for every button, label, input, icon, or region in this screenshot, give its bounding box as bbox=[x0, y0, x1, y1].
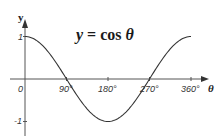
x-tick-label-270: 270° bbox=[139, 84, 159, 94]
y-tick-label-neg1: -1 bbox=[14, 116, 22, 126]
x-tick-label-90: 90° bbox=[59, 84, 73, 94]
title-arg: θ bbox=[126, 26, 135, 43]
cosine-chart: y θ 0 90° 180° 270° 360° 1 -1 y = cos θ bbox=[0, 0, 224, 140]
y-axis-label: y bbox=[18, 11, 24, 23]
chart-title: y = cos θ bbox=[74, 26, 135, 44]
title-eq: = cos bbox=[83, 26, 125, 43]
x-tick-label-0: 0 bbox=[18, 84, 23, 94]
x-axis-label: θ bbox=[208, 82, 214, 94]
x-tick-label-360: 360° bbox=[181, 84, 200, 94]
y-tick-label-1: 1 bbox=[18, 32, 23, 42]
x-tick-label-180: 180° bbox=[98, 84, 117, 94]
